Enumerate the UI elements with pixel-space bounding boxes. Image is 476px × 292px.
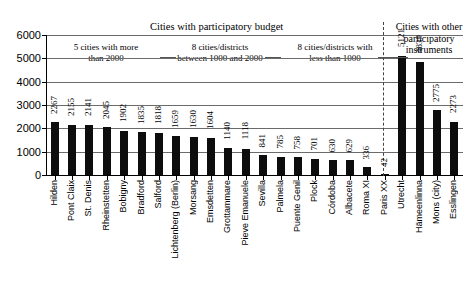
bar [259,155,267,175]
bar-value-label: 4839 [415,35,424,53]
x-category-label: Albacete [345,180,354,215]
x-category-label: Rheinstetten [102,180,111,231]
x-category-label: Utrecht [397,180,406,209]
bar-value-label: 5121 [397,29,406,47]
annotation-rule-3 [378,57,408,58]
bar [155,133,163,175]
group-divider-dashed [383,22,384,176]
bar [120,131,128,175]
bar-value-label: 2273 [449,95,458,113]
bar-value-label: 841 [258,134,267,148]
bar [450,122,458,175]
bar [242,149,250,175]
y-tick-label: 6000 [1,30,41,41]
bar [277,157,285,175]
x-category-label: St. Denis [84,180,93,217]
bar-value-label: 2141 [84,98,93,116]
bar-value-label: 336 [362,146,371,160]
bar [433,110,441,175]
bar [311,159,319,175]
bar [416,62,424,175]
bar [346,160,354,175]
bar-value-label: 1902 [119,104,128,122]
x-category-label: Grottammare [223,180,232,233]
x-category-label: Salford [154,180,163,209]
x-category-label: Sevilla [258,180,267,207]
y-tick-label: 2000 [1,123,41,134]
bar [85,125,93,175]
bar-value-label: 785 [276,135,285,149]
y-tick-label: 3000 [1,100,41,111]
bar [363,167,371,175]
bar-value-label: 758 [293,136,302,150]
bar-value-label: 1604 [206,111,215,129]
bar [224,148,232,175]
x-category-label: Pont Claix [67,180,76,221]
bar [398,56,406,175]
x-category-label: Lichtenberg (Berlin) [171,180,180,259]
bar [172,136,180,175]
bar-value-label: 2775 [432,84,441,102]
bar-value-label: 1835 [137,106,146,124]
bar [51,122,59,175]
y-tick-label: 5000 [1,53,41,64]
annotation-rule-1 [160,57,176,58]
x-category-label: Puente Genil [293,180,302,232]
y-tick-label: 1000 [1,147,41,158]
x-category-label: Bobigny [119,180,128,213]
bar-value-label: 1630 [189,110,198,128]
y-tick-label: 0 [1,170,41,181]
bar-value-label: 1140 [223,122,232,140]
x-category-label: Mons (city) [432,180,441,224]
bar-value-label: 629 [345,139,354,153]
super-header-participatory-budget: Cities with participatory budget [150,21,283,32]
bar-value-label: 1659 [171,110,180,128]
bar-value-label: 2155 [67,98,76,116]
bar-value-label: 630 [328,139,337,153]
bar-value-label: 42 [380,158,389,167]
bar-value-label: 1818 [154,106,163,124]
bar [103,127,111,175]
x-category-label: Esslingen [449,180,458,219]
x-axis [46,175,463,176]
annotation-rule-2 [265,57,281,58]
bar-value-label: 2045 [102,101,111,119]
x-category-label: Hilden [50,180,59,206]
x-category-label: Emsdetten [206,180,215,223]
bar [207,138,215,175]
x-category-label: Roma XI [362,180,371,215]
x-category-label: Paris XX [380,180,389,215]
bar-value-label: 1118 [241,122,250,139]
bar [190,137,198,175]
bar-value-label: 2267 [50,96,59,114]
bar [68,125,76,175]
bar [329,160,337,175]
bar [294,157,302,175]
y-tick-label: 4000 [1,77,41,88]
x-category-label: Hämeenlinna [415,180,424,233]
bar-chart: Cities with participatory budget Cities … [0,0,476,292]
x-category-label: Córdoba [328,180,337,215]
x-category-label: Palmela [276,180,285,213]
bar [138,132,146,175]
y-tick-mark [42,175,47,176]
x-category-label: Morsang [189,180,198,215]
x-category-label: Pieve Emanuele [241,180,250,246]
bar-value-label: 701 [310,137,319,151]
x-category-label: Bradford [137,180,146,215]
x-category-label: Plock [310,180,319,202]
